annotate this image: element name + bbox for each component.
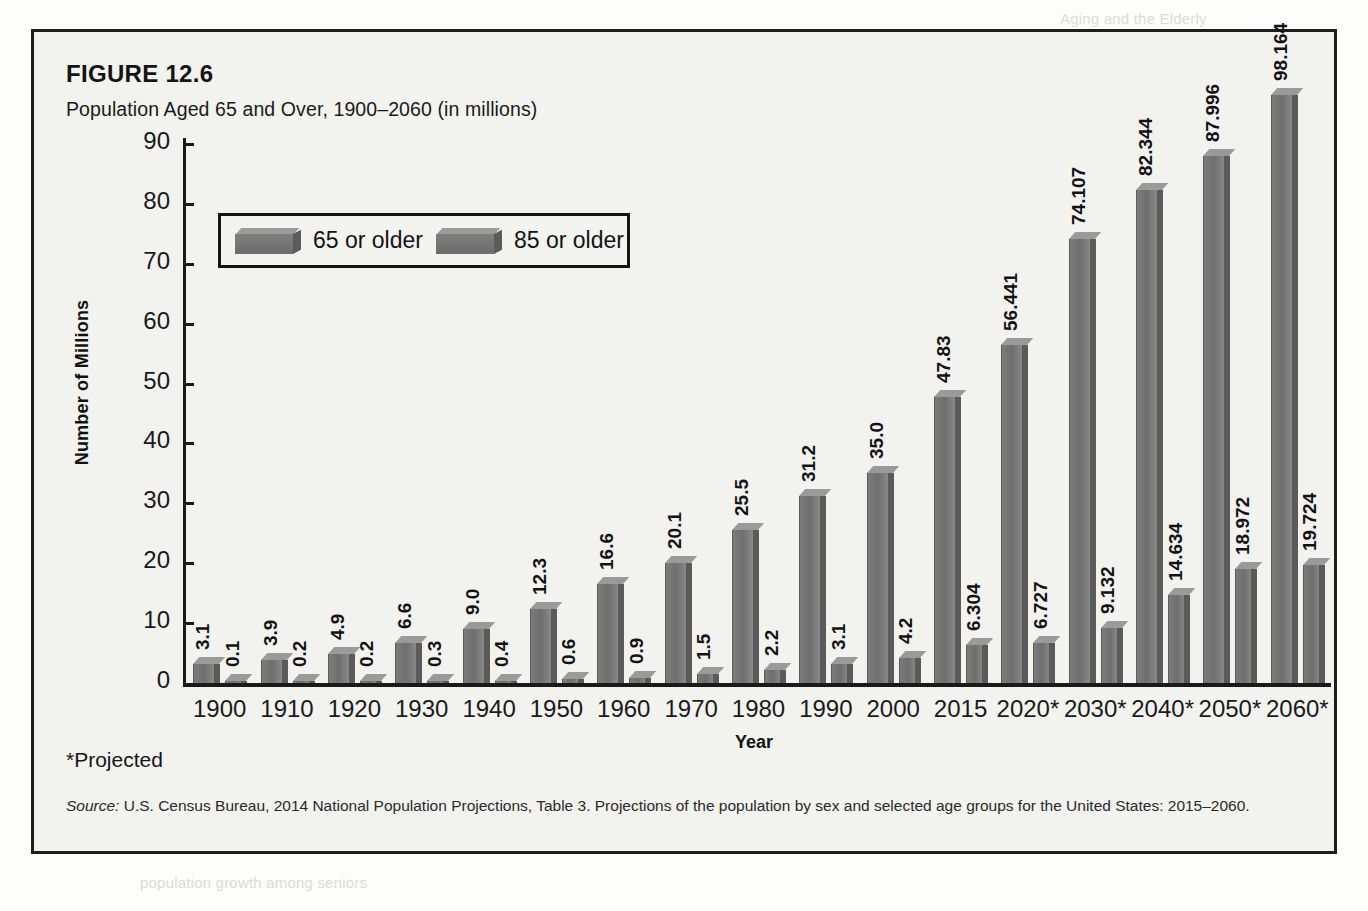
bar-value-label: 6.6 [394, 603, 416, 629]
x-tick-label: 2030* [1062, 695, 1129, 723]
bar-side-face [241, 681, 247, 683]
bar-65-or-older[interactable]: 4.9 [328, 654, 354, 683]
bar-group: 9.00.4 [463, 123, 516, 683]
bar-85-or-older[interactable]: 9.132 [1101, 628, 1122, 683]
bar-value-label: 3.9 [260, 619, 282, 645]
bar-top-face [1033, 636, 1060, 643]
bar-65-or-older[interactable]: 87.996 [1203, 156, 1229, 683]
legend-swatch-face [436, 234, 494, 254]
bar-top-face [597, 577, 629, 584]
bar-top-face [225, 674, 252, 681]
bar-65-or-older[interactable]: 16.6 [597, 584, 623, 683]
x-tick-label: 2040* [1129, 695, 1196, 723]
x-tick-label: 1990 [792, 695, 859, 723]
bar-top-face [1101, 621, 1128, 628]
bar-65-or-older[interactable]: 31.2 [799, 496, 825, 683]
bar-top-face [764, 663, 791, 670]
bar-65-or-older[interactable]: 20.1 [665, 563, 691, 683]
bar-side-face [915, 658, 921, 683]
x-tick-label: 2020* [994, 695, 1061, 723]
bar-side-face [1117, 628, 1123, 683]
bar-85-or-older[interactable]: 14.634 [1168, 595, 1189, 683]
bar-group: 3.10.1 [193, 123, 246, 683]
page-ghost-text: Aging and the Elderly [1060, 10, 1207, 27]
bar-group: 3.90.2 [261, 123, 314, 683]
bar-85-or-older[interactable]: 2.2 [764, 670, 785, 683]
x-tick-label: 2000 [860, 695, 927, 723]
bar-side-face [780, 670, 786, 683]
x-tick-label: 1900 [186, 695, 253, 723]
bar-85-or-older[interactable]: 3.1 [831, 664, 852, 683]
bar-85-or-older[interactable]: 0.1 [225, 681, 246, 683]
legend-item[interactable]: 85 or older [436, 216, 624, 265]
bar-group: 12.30.6 [530, 123, 583, 683]
bar-65-or-older[interactable]: 3.9 [261, 660, 287, 683]
bar-65-or-older[interactable]: 74.107 [1069, 239, 1095, 683]
x-tick-label: 2015 [927, 695, 994, 723]
bar-85-or-older[interactable]: 0.2 [293, 681, 314, 683]
bar-85-or-older[interactable]: 1.5 [697, 674, 718, 683]
bar-65-or-older[interactable]: 35.0 [867, 473, 893, 683]
bar-side-face [1157, 190, 1163, 683]
bar-top-face [293, 674, 320, 681]
bar-top-face [1168, 588, 1195, 595]
bar-side-face [847, 664, 853, 683]
bar-value-label: 98.164 [1270, 23, 1292, 81]
bar-85-or-older[interactable]: 6.304 [966, 645, 987, 683]
bar-65-or-older[interactable]: 98.164 [1271, 95, 1297, 683]
bar-value-label: 12.3 [529, 558, 551, 595]
projected-footnote: *Projected [66, 748, 163, 772]
bar-85-or-older[interactable]: 19.724 [1303, 565, 1324, 683]
bar-65-or-older[interactable]: 82.344 [1136, 190, 1162, 683]
bar-65-or-older[interactable]: 6.6 [395, 643, 421, 683]
bar-85-or-older[interactable]: 0.6 [562, 679, 583, 683]
bar-group: 6.60.3 [395, 123, 448, 683]
bar-side-face [511, 681, 517, 683]
bar-side-face [618, 584, 624, 683]
bar-top-face [1203, 149, 1235, 156]
bar-top-face [427, 674, 454, 681]
x-tick-label: 1980 [725, 695, 792, 723]
bar-top-face [1136, 183, 1168, 190]
bar-side-face [820, 496, 826, 683]
bar-side-face [1049, 643, 1055, 683]
bar-value-label: 0.2 [356, 641, 378, 667]
bar-top-face [1001, 338, 1033, 345]
bar-85-or-older[interactable]: 0.3 [427, 681, 448, 683]
bar-85-or-older[interactable]: 4.2 [899, 658, 920, 683]
bar-group: 74.1079.132 [1069, 123, 1122, 683]
bar-value-label: 0.2 [289, 641, 311, 667]
bar-group: 31.23.1 [799, 123, 852, 683]
bar-65-or-older[interactable]: 56.441 [1001, 345, 1027, 683]
bar-65-or-older[interactable]: 12.3 [530, 609, 556, 683]
bar-group: 98.16419.724 [1271, 123, 1324, 683]
y-tick-label: 80 [112, 187, 170, 215]
bar-side-face [376, 681, 382, 683]
bar-side-face [686, 563, 692, 683]
bar-value-label: 0.3 [424, 641, 446, 667]
bar-85-or-older[interactable]: 6.727 [1033, 643, 1054, 683]
bar-side-face [1022, 345, 1028, 683]
bar-value-label: 3.1 [828, 624, 850, 650]
x-tick-label: 1940 [455, 695, 522, 723]
bar-value-label: 25.5 [731, 479, 753, 516]
bar-value-label: 47.83 [933, 335, 955, 383]
bar-side-face [645, 678, 651, 683]
bar-side-face [1319, 565, 1325, 683]
bar-85-or-older[interactable]: 0.9 [629, 678, 650, 683]
bar-85-or-older[interactable]: 18.972 [1235, 569, 1256, 683]
bar-value-label: 3.1 [192, 624, 214, 650]
bar-65-or-older[interactable]: 3.1 [193, 664, 219, 683]
legend-swatch-face [293, 229, 301, 253]
bar-65-or-older[interactable]: 9.0 [463, 629, 489, 683]
bar-65-or-older[interactable]: 25.5 [732, 530, 758, 683]
bar-85-or-older[interactable]: 0.2 [360, 681, 381, 683]
bar-65-or-older[interactable]: 47.83 [934, 397, 960, 683]
y-axis-line [183, 138, 186, 686]
legend-item[interactable]: 65 or older [235, 216, 423, 265]
bar-85-or-older[interactable]: 0.4 [495, 681, 516, 683]
bar-top-face [867, 466, 899, 473]
bar-top-face [495, 674, 522, 681]
bar-value-label: 4.9 [327, 613, 349, 639]
y-tick-label: 0 [112, 666, 170, 694]
